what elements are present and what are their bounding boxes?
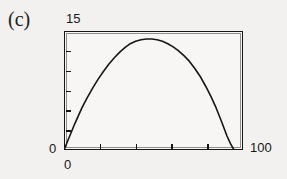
x-axis-min-label: 0	[64, 158, 71, 171]
y-axis-min-label: 0	[49, 142, 56, 155]
x-axis-max-label: 100	[250, 141, 272, 154]
plot-area	[64, 31, 243, 150]
y-axis-max-label: 15	[66, 12, 80, 25]
panel-label: (c)	[8, 8, 30, 31]
data-curve	[64, 39, 234, 150]
figure-root: (c) 15 0 0 100	[0, 0, 287, 179]
curve-plot	[64, 31, 243, 150]
